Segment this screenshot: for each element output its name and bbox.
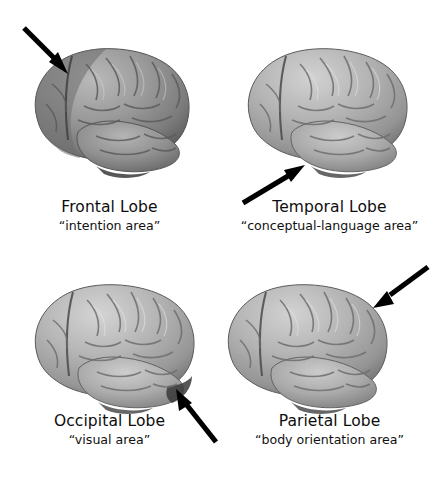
- lobe-subtitle: “intention area”: [0, 218, 219, 234]
- caption-parietal-lobe: Parietal Lobe “body orientation area”: [220, 412, 439, 448]
- brain-illustration-occipital: [0, 236, 219, 426]
- lobe-title: Temporal Lobe: [220, 198, 439, 216]
- panel-temporal-lobe: Temporal Lobe “conceptual-language area”: [220, 0, 439, 245]
- panel-occipital-lobe: Occipital Lobe “visual area”: [0, 246, 219, 491]
- lobe-subtitle: “conceptual-language area”: [220, 218, 439, 234]
- caption-frontal-lobe: Frontal Lobe “intention area”: [0, 198, 219, 234]
- brain-lobes-figure: Frontal Lobe “intention area”: [0, 0, 439, 491]
- lobe-title: Occipital Lobe: [0, 412, 219, 430]
- arrow-pointing-to-frontal-lobe: [18, 22, 76, 80]
- lobe-subtitle: “body orientation area”: [220, 432, 439, 448]
- arrow-pointing-to-parietal-lobe: [368, 262, 434, 320]
- lobe-title: Parietal Lobe: [220, 412, 439, 430]
- panel-parietal-lobe: Parietal Lobe “body orientation area”: [220, 246, 439, 491]
- lobe-subtitle: “visual area”: [0, 432, 219, 448]
- panel-frontal-lobe: Frontal Lobe “intention area”: [0, 0, 219, 245]
- brain-illustration-parietal: [220, 236, 439, 426]
- brain-illustration-temporal: [220, 0, 439, 190]
- brain-illustration-frontal: [0, 0, 219, 190]
- caption-temporal-lobe: Temporal Lobe “conceptual-language area”: [220, 198, 439, 234]
- caption-occipital-lobe: Occipital Lobe “visual area”: [0, 412, 219, 448]
- lobe-title: Frontal Lobe: [0, 198, 219, 216]
